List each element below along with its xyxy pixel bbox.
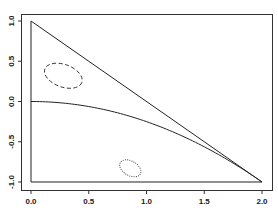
x-axis: 0.00.51.01.52.0 bbox=[25, 191, 268, 207]
curve bbox=[31, 102, 262, 183]
y-tick-label: 1.0 bbox=[7, 15, 16, 27]
ellipse-dotted bbox=[117, 156, 144, 180]
x-tick-label: 0.0 bbox=[25, 197, 37, 206]
x-tick-label: 2.0 bbox=[256, 197, 268, 206]
y-tick-label: 0.5 bbox=[7, 55, 16, 67]
triangle-boundary bbox=[31, 21, 262, 182]
y-tick-label: 0.0 bbox=[7, 95, 16, 107]
y-tick-label: -0.5 bbox=[7, 134, 16, 148]
x-tick-label: 0.5 bbox=[83, 197, 95, 206]
y-axis: -1.0-0.50.00.51.0 bbox=[7, 15, 22, 189]
ellipse-dashed bbox=[41, 58, 86, 93]
x-tick-label: 1.0 bbox=[141, 197, 153, 206]
y-tick-label: -1.0 bbox=[7, 175, 16, 189]
series-layer bbox=[31, 21, 262, 182]
x-tick-label: 1.5 bbox=[199, 197, 211, 206]
chart: 0.00.51.01.52.0 -1.0-0.50.00.51.0 bbox=[0, 0, 278, 215]
